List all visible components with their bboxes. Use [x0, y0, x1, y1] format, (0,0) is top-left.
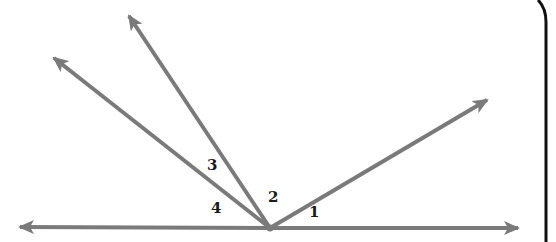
angle-label-1: 1 — [309, 205, 319, 220]
angle-diagram: 1 2 3 4 — [0, 0, 556, 242]
angle-label-2: 2 — [268, 190, 278, 205]
angle-label-4: 4 — [211, 201, 221, 216]
angle-label-3: 3 — [207, 158, 217, 173]
vertex-point — [267, 225, 274, 232]
right-bracket-border — [538, 0, 546, 242]
ray-upper-left-steep — [129, 16, 270, 228]
ray-upper-right — [270, 100, 487, 228]
ray-upper-left-shallow — [54, 58, 270, 228]
diagram-svg — [0, 0, 556, 242]
baseline-left-ray — [20, 227, 270, 228]
